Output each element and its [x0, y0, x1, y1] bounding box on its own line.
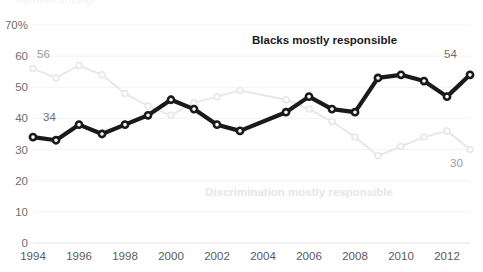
- data-point: [76, 122, 82, 128]
- data-point: [76, 63, 82, 69]
- data-point: [467, 72, 473, 78]
- x-tick-label: 2006: [296, 250, 322, 262]
- data-point: [398, 144, 404, 150]
- endpoint-value-label: 34: [43, 111, 56, 123]
- series-label-blacks: Blacks mostly responsible: [252, 34, 397, 46]
- x-tick-label: 1996: [66, 250, 92, 262]
- endpoint-value-label: 30: [450, 157, 463, 169]
- data-point: [53, 137, 59, 143]
- data-point: [306, 106, 312, 112]
- data-point: [122, 122, 128, 128]
- endpoint-value-label: 56: [37, 48, 50, 60]
- data-point: [122, 91, 128, 97]
- series-line: [33, 65, 470, 155]
- y-tick-label: 30: [15, 144, 28, 156]
- data-point: [444, 94, 450, 100]
- x-tick-label: 1994: [20, 250, 46, 262]
- endpoint-value-label: 54: [444, 48, 457, 60]
- data-point: [329, 119, 335, 125]
- data-point: [398, 72, 404, 78]
- chart-figure: opinion among 010203040506070% 199419961…: [0, 0, 483, 272]
- data-point: [283, 109, 289, 115]
- data-point: [375, 75, 381, 81]
- series-label-discrimination: Discrimination mostly responsible: [205, 186, 393, 198]
- data-point: [99, 131, 105, 137]
- data-point: [30, 134, 36, 140]
- data-point: [306, 94, 312, 100]
- data-point: [444, 128, 450, 134]
- y-tick-label: 40: [15, 112, 28, 124]
- y-tick-label: 20: [15, 175, 28, 187]
- x-tick-label: 1998: [112, 250, 138, 262]
- data-point: [214, 122, 220, 128]
- data-point: [168, 97, 174, 103]
- data-point: [145, 103, 151, 109]
- x-axis-tick-labels: 1994199619982000200220042006200820102012: [20, 250, 460, 262]
- x-tick-label: 2000: [158, 250, 184, 262]
- line-chart-canvas: 010203040506070% 19941996199820002002200…: [0, 0, 483, 272]
- data-point: [99, 72, 105, 78]
- y-tick-label: 70%: [5, 19, 28, 31]
- series-line: [33, 75, 470, 140]
- y-tick-label: 0: [22, 237, 28, 249]
- data-point: [53, 75, 59, 81]
- data-point: [352, 109, 358, 115]
- data-point: [145, 112, 151, 118]
- data-point: [421, 78, 427, 84]
- data-point: [168, 112, 174, 118]
- data-point: [352, 134, 358, 140]
- x-tick-label: 2012: [434, 250, 460, 262]
- data-point: [30, 66, 36, 72]
- data-point: [237, 88, 243, 94]
- endpoint-value-labels: 34545630: [37, 48, 463, 169]
- y-tick-label: 10: [15, 206, 28, 218]
- x-tick-label: 2004: [250, 250, 276, 262]
- data-point: [214, 94, 220, 100]
- x-tick-label: 2010: [388, 250, 414, 262]
- data-point: [421, 134, 427, 140]
- x-tick-label: 2002: [204, 250, 230, 262]
- y-tick-label: 50: [15, 81, 28, 93]
- data-point: [329, 106, 335, 112]
- y-axis-tick-labels: 010203040506070%: [5, 19, 28, 249]
- data-point: [191, 106, 197, 112]
- series-blacks-mostly-responsible: [30, 72, 473, 144]
- x-tick-label: 2008: [342, 250, 368, 262]
- data-point: [283, 97, 289, 103]
- data-point: [467, 147, 473, 153]
- data-point: [375, 153, 381, 159]
- y-tick-label: 60: [15, 50, 28, 62]
- data-point: [237, 128, 243, 134]
